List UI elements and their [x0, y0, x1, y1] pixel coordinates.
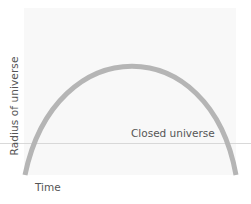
- chart-canvas: [0, 0, 251, 204]
- x-axis-label: Time: [35, 181, 61, 193]
- closed-universe-curve: [25, 66, 236, 175]
- y-axis-label: Radius of universe: [8, 46, 20, 166]
- curve-annotation: Closed universe: [131, 127, 215, 139]
